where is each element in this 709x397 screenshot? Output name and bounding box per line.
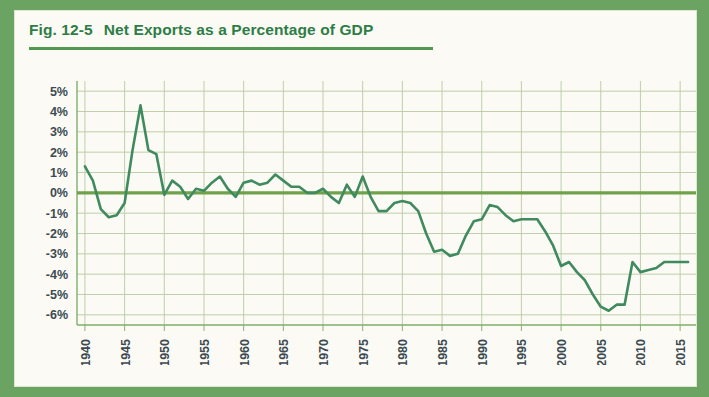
x-axis-tick-label: 2000: [555, 339, 569, 365]
x-axis-tick-label: 1975: [357, 339, 371, 365]
y-axis-tick-label: -5%: [46, 288, 68, 302]
net-exports-line-chart: 5%4%3%2%1%0%-1%-2%-3%-4%-5%-6%1940194519…: [15, 55, 698, 365]
x-axis-tick-label: 1995: [515, 339, 529, 365]
x-axis-tick-label: 2005: [595, 339, 609, 365]
x-axis-tick-label: 1980: [396, 339, 410, 365]
page-title: Fig. 12-5Net Exports as a Percentage of …: [29, 21, 682, 39]
figure-number-label: Fig. 12-5: [29, 21, 93, 38]
figure-frame: Fig. 12-5Net Exports as a Percentage of …: [0, 0, 709, 397]
y-axis-tick-label: 2%: [50, 146, 68, 160]
x-axis-tick-label: 1985: [436, 339, 450, 365]
x-axis-tick-label: 1990: [476, 339, 490, 365]
x-axis-tick-label: 1945: [119, 339, 133, 365]
figure-card: Fig. 12-5Net Exports as a Percentage of …: [14, 10, 697, 387]
y-axis-tick-label: 3%: [50, 125, 68, 139]
x-axis-tick-label: 1940: [79, 339, 93, 365]
x-axis-tick-label: 2015: [674, 339, 688, 365]
y-axis-tick-label: -2%: [46, 227, 68, 241]
figure-title-text: Net Exports as a Percentage of GDP: [104, 21, 374, 38]
y-axis-tick-label: -1%: [46, 207, 68, 221]
title-divider: [29, 47, 433, 50]
chart-plot-area: 5%4%3%2%1%0%-1%-2%-3%-4%-5%-6%1940194519…: [15, 55, 696, 365]
y-axis-tick-label: 5%: [50, 85, 68, 99]
y-axis-tick-label: -6%: [46, 308, 68, 322]
y-axis-tick-label: 0%: [50, 186, 68, 200]
x-axis-tick-label: 2010: [634, 339, 648, 365]
y-axis-tick-label: 4%: [50, 105, 68, 119]
y-axis-tick-label: -3%: [46, 247, 68, 261]
x-axis-tick-label: 1965: [277, 339, 291, 365]
data-series-line: [85, 105, 688, 310]
x-axis-tick-label: 1960: [238, 339, 252, 365]
y-axis-tick-label: 1%: [50, 166, 68, 180]
x-axis-tick-label: 1970: [317, 339, 331, 365]
y-axis-tick-label: -4%: [46, 268, 68, 282]
x-axis-tick-label: 1950: [158, 339, 172, 365]
x-axis-tick-label: 1955: [198, 339, 212, 365]
